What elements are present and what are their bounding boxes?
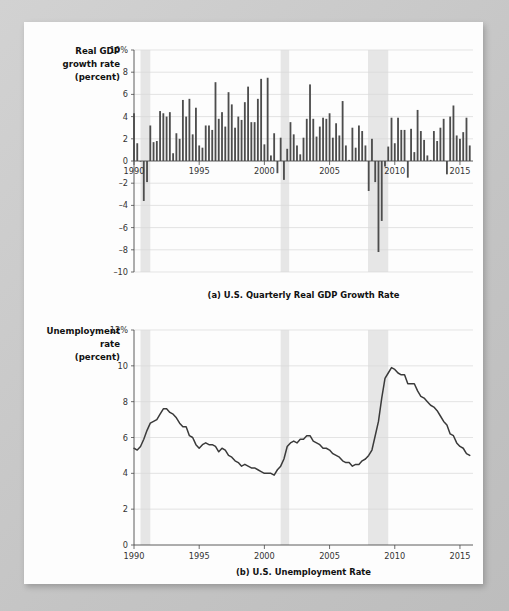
y-tick-label-a: 6 bbox=[123, 89, 128, 99]
gdp-bar bbox=[365, 145, 367, 161]
gdp-bar bbox=[332, 138, 334, 161]
gdp-bar bbox=[443, 119, 445, 161]
gdp-bar bbox=[371, 139, 373, 161]
x-tick-label-b: 2000 bbox=[254, 551, 275, 561]
panel-b-caption: (b) U.S. Unemployment Rate bbox=[236, 567, 371, 577]
gdp-bar bbox=[404, 130, 406, 161]
gdp-bar bbox=[185, 117, 187, 161]
gdp-bar bbox=[296, 145, 298, 161]
y-tick-label-b: 10 bbox=[118, 361, 128, 371]
gdp-bar bbox=[410, 129, 412, 161]
gdp-bar bbox=[381, 161, 383, 221]
gdp-bar bbox=[237, 117, 239, 161]
y-tick-label-a: –8 bbox=[119, 245, 128, 255]
gdp-bar bbox=[254, 122, 256, 161]
y-tick-label-b: 4 bbox=[123, 468, 128, 478]
gdp-bar bbox=[277, 161, 279, 173]
panel-b-axis-label: Unemployment bbox=[47, 326, 121, 336]
x-tick-label-a: 1990 bbox=[124, 166, 145, 176]
gdp-bar bbox=[397, 118, 399, 161]
y-tick-label-a: –4 bbox=[119, 200, 128, 210]
gdp-bar bbox=[374, 161, 376, 182]
gdp-bar bbox=[215, 82, 217, 161]
panel-b: 12%1086420199019952000200520102015Unempl… bbox=[47, 325, 474, 577]
gdp-bar bbox=[351, 128, 353, 161]
panel-a-axis-label: growth rate bbox=[63, 59, 121, 69]
y-tick-label-b: 8 bbox=[123, 397, 128, 407]
gdp-bar bbox=[169, 112, 171, 161]
y-tick-label-a: –10 bbox=[113, 267, 128, 277]
gdp-bar bbox=[221, 112, 223, 161]
gdp-bar bbox=[270, 155, 272, 161]
panel-a-caption: (a) U.S. Quarterly Real GDP Growth Rate bbox=[208, 290, 400, 300]
gdp-bar bbox=[417, 110, 419, 161]
gdp-bar bbox=[453, 106, 455, 162]
x-tick-label-a: 2005 bbox=[319, 166, 340, 176]
y-tick-label-b: 0 bbox=[123, 540, 128, 550]
x-tick-label-b: 2015 bbox=[450, 551, 471, 561]
x-tick-label-a: 2015 bbox=[450, 166, 471, 176]
x-tick-label-b: 1990 bbox=[124, 551, 145, 561]
gdp-bar bbox=[329, 113, 331, 161]
gdp-bar bbox=[286, 149, 288, 161]
gdp-bar bbox=[446, 161, 448, 174]
gdp-bar bbox=[316, 137, 318, 161]
x-tick-label-b: 2010 bbox=[384, 551, 405, 561]
gdp-bar bbox=[426, 155, 428, 161]
y-tick-label-a: –2 bbox=[119, 178, 128, 188]
gdp-bar bbox=[355, 148, 357, 161]
gdp-bar bbox=[208, 125, 210, 161]
gdp-bar bbox=[218, 119, 220, 161]
gdp-bar bbox=[358, 125, 360, 161]
x-tick-label-a: 2010 bbox=[384, 166, 405, 176]
gdp-bar bbox=[462, 132, 464, 161]
gdp-bar bbox=[166, 117, 168, 161]
gdp-bar bbox=[156, 141, 158, 161]
gdp-bar bbox=[244, 102, 246, 161]
panel-a-axis-label: (percent) bbox=[75, 72, 120, 82]
figure-panel: 10%86420–2–4–6–8–10199019952000200520102… bbox=[24, 22, 483, 584]
gdp-bar bbox=[394, 143, 396, 161]
gdp-bar bbox=[189, 99, 191, 161]
gdp-bar bbox=[361, 131, 363, 161]
gdp-bar bbox=[309, 84, 311, 161]
gdp-bar bbox=[400, 130, 402, 161]
figure-container: 10%86420–2–4–6–8–10199019952000200520102… bbox=[24, 22, 483, 584]
gdp-bar bbox=[338, 135, 340, 161]
gdp-bar bbox=[387, 147, 389, 161]
gdp-bar bbox=[263, 144, 265, 161]
gdp-bar bbox=[312, 119, 314, 161]
gdp-bar bbox=[136, 143, 138, 161]
gdp-bar bbox=[195, 108, 197, 161]
gdp-bar bbox=[378, 161, 380, 252]
gdp-bar bbox=[456, 135, 458, 161]
y-tick-label-a: –6 bbox=[119, 223, 128, 233]
gdp-bar bbox=[280, 138, 282, 161]
gdp-bar bbox=[436, 141, 438, 161]
gdp-bar bbox=[303, 138, 305, 161]
gdp-bar bbox=[211, 130, 213, 161]
gdp-bar bbox=[247, 87, 249, 161]
gdp-bar bbox=[205, 125, 207, 161]
gdp-bar bbox=[290, 122, 292, 161]
gdp-bar bbox=[306, 119, 308, 161]
x-tick-label-b: 2005 bbox=[319, 551, 340, 561]
gdp-bar bbox=[345, 145, 347, 161]
gdp-bar bbox=[420, 131, 422, 161]
gdp-bar bbox=[231, 104, 233, 161]
gdp-bar bbox=[172, 153, 174, 161]
gdp-bar bbox=[325, 119, 327, 161]
panel-b-axis-label: rate bbox=[100, 339, 120, 349]
gdp-bar bbox=[368, 161, 370, 191]
gdp-bar bbox=[202, 148, 204, 161]
gdp-bar bbox=[439, 128, 441, 161]
gdp-bar bbox=[449, 117, 451, 161]
gdp-bar bbox=[273, 133, 275, 161]
y-tick-label-a: 0 bbox=[123, 156, 128, 166]
panel-b-axis-label: (percent) bbox=[75, 352, 120, 362]
gdp-bar bbox=[322, 118, 324, 161]
gdp-bar bbox=[192, 134, 194, 161]
page-background: 10%86420–2–4–6–8–10199019952000200520102… bbox=[0, 0, 509, 611]
gdp-bar bbox=[250, 122, 252, 161]
gdp-bar bbox=[175, 133, 177, 161]
